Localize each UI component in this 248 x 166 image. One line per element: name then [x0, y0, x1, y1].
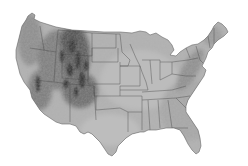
us-relief-map — [0, 0, 248, 166]
land-area — [0, 0, 248, 166]
